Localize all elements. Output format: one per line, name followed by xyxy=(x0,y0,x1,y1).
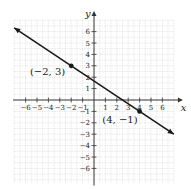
data-point xyxy=(137,109,142,114)
x-tick-label: −6 xyxy=(20,104,31,112)
y-tick-label: 5 xyxy=(86,40,90,48)
x-axis-label: x xyxy=(181,102,187,113)
y-axis-label: y xyxy=(84,8,91,19)
point-label: (−2, 3) xyxy=(30,66,65,77)
x-tick-label: −4 xyxy=(43,104,54,112)
y-tick-label: −3 xyxy=(80,131,90,139)
data-point xyxy=(69,63,74,68)
y-tick-label: −5 xyxy=(80,154,90,162)
y-tick-label: 3 xyxy=(86,62,90,70)
y-tick-label: −6 xyxy=(80,165,91,173)
y-tick-label: −4 xyxy=(80,142,91,150)
y-tick-label: −2 xyxy=(80,119,90,127)
y-tick-label: 6 xyxy=(86,28,91,36)
x-tick-label: −2 xyxy=(66,104,76,112)
x-tick-label: 1 xyxy=(103,104,107,112)
x-tick-label: 6 xyxy=(160,104,165,112)
y-tick-label: −1 xyxy=(80,108,90,116)
point-label: (4, −1) xyxy=(102,114,137,125)
y-tick-label: 4 xyxy=(86,51,91,59)
x-tick-label: 2 xyxy=(115,104,119,112)
y-tick-label: 1 xyxy=(86,85,90,93)
x-tick-label: 5 xyxy=(149,104,153,112)
y-axis-arrow-icon xyxy=(92,11,97,16)
coordinate-plane: −6−5−4−3−2−1123456−6−5−4−3−2−1123456 (−2… xyxy=(0,0,191,189)
x-tick-label: −5 xyxy=(32,104,42,112)
x-tick-label: −3 xyxy=(55,104,65,112)
